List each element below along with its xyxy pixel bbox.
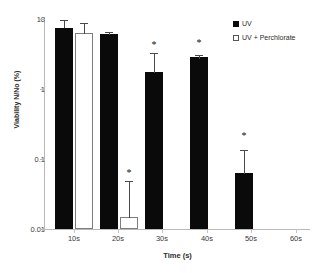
bar-uv-10s xyxy=(55,28,73,229)
error-bar-uv-perchlorate-20s xyxy=(129,181,130,218)
y-tick-label-1: 1 xyxy=(0,85,45,94)
x-tick-label-60s: 60s xyxy=(273,234,319,243)
error-cap-uv-30s xyxy=(150,53,158,54)
chart-figure: Viability N/No (%) 10 1 0.1 0.01 * xyxy=(0,0,332,273)
error-bar-uv-perchlorate-10s xyxy=(84,23,85,34)
y-tick-label-0.01: 0.01 xyxy=(0,225,45,234)
legend-label-uv: UV xyxy=(242,20,252,27)
bar-uv-40s xyxy=(190,57,208,229)
significance-star-uv-40s: * xyxy=(193,39,205,47)
error-bar-uv-50s xyxy=(244,150,245,174)
significance-star-uv-50s: * xyxy=(238,132,250,140)
legend-swatch-filled-square-icon xyxy=(233,21,239,27)
x-tick-label-30s: 30s xyxy=(139,234,185,243)
bar-uv-50s xyxy=(235,173,253,229)
y-tick-label-0.1: 0.1 xyxy=(0,155,45,164)
chart-legend: UV UV + Perchlorate xyxy=(233,14,296,42)
x-tick-label-10s: 10s xyxy=(51,234,97,243)
x-axis-line xyxy=(44,229,310,230)
error-cap-uv-10s xyxy=(60,20,68,21)
x-tick-mark-40s xyxy=(207,229,208,233)
significance-star-uv-30s: * xyxy=(148,41,160,49)
error-cap-uv-40s xyxy=(195,55,203,56)
error-cap-uv-50s xyxy=(240,150,248,151)
y-tick-label-10: 10 xyxy=(0,15,45,24)
error-cap-uv-perchlorate-20s xyxy=(125,181,133,182)
x-tick-mark-50s xyxy=(251,229,252,233)
x-tick-mark-20s xyxy=(118,229,119,233)
legend-entry-uv-perchlorate: UV + Perchlorate xyxy=(233,28,296,42)
error-bar-uv-10s xyxy=(64,20,65,28)
x-tick-label-50s: 50s xyxy=(228,234,274,243)
x-tick-mark-10s xyxy=(74,229,75,233)
bar-uv-perchlorate-20s xyxy=(120,217,138,229)
error-bar-uv-30s xyxy=(154,53,155,73)
y-axis-label: Viability N/No (%) xyxy=(13,30,20,170)
y-tick-mark-0.01 xyxy=(40,229,45,230)
plot-area: * * * * xyxy=(45,19,310,229)
x-tick-mark-60s xyxy=(296,229,297,233)
legend-entry-uv: UV xyxy=(233,14,296,28)
x-tick-mark-30s xyxy=(162,229,163,233)
x-tick-label-40s: 40s xyxy=(184,234,230,243)
bar-uv-20s xyxy=(100,34,118,229)
bar-uv-perchlorate-10s xyxy=(75,33,93,229)
error-cap-uv-perchlorate-10s xyxy=(80,23,88,24)
significance-star-uv-perchlorate-20s: * xyxy=(123,169,135,177)
x-axis-label: Time (s) xyxy=(45,251,310,260)
bar-uv-30s xyxy=(145,72,163,229)
x-tick-label-20s: 20s xyxy=(95,234,141,243)
legend-swatch-open-square-icon xyxy=(233,35,239,41)
error-cap-uv-20s xyxy=(105,32,113,33)
legend-label-uv-perchlorate: UV + Perchlorate xyxy=(242,34,296,41)
